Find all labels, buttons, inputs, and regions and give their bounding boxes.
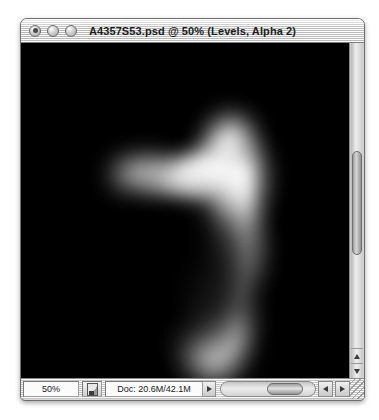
document-info-value: Doc: 20.6M/42.1M: [117, 384, 191, 394]
artwork-arm: [147, 156, 230, 196]
status-bar: 50% Doc: 20.6M/42.1M: [21, 378, 364, 399]
artwork-body-lower: [187, 257, 255, 358]
artwork-hook-top: [198, 111, 258, 179]
window-controls: [29, 25, 77, 37]
document-info-popup-button[interactable]: [203, 381, 216, 397]
triangle-down-icon: [354, 369, 360, 374]
document-info-field[interactable]: Doc: 20.6M/42.1M: [105, 381, 203, 397]
artwork-arm-tip: [112, 157, 172, 189]
artwork-core-mid: [210, 222, 243, 304]
triangle-up-icon: [354, 354, 360, 359]
artwork-junction: [191, 153, 239, 201]
triangle-right-icon: [207, 386, 212, 392]
horizontal-scrollbar-thumb[interactable]: [267, 383, 303, 395]
window-title-bar[interactable]: A4357S53.psd @ 50% (Levels, Alpha 2): [21, 19, 364, 43]
minimize-button[interactable]: [47, 25, 59, 37]
artwork-concavity: [149, 199, 253, 349]
scroll-left-button[interactable]: [318, 381, 333, 397]
zoom-level-field[interactable]: 50%: [23, 381, 79, 397]
artwork-tail: [179, 316, 245, 378]
photoshop-document-window[interactable]: A4357S53.psd @ 50% (Levels, Alpha 2): [20, 18, 365, 401]
zoom-button[interactable]: [65, 25, 77, 37]
scroll-up-button[interactable]: [351, 348, 363, 363]
window-resize-grip[interactable]: [350, 379, 364, 399]
zoom-level-value: 50%: [42, 384, 60, 394]
document-proxy-button[interactable]: [82, 381, 102, 397]
scroll-right-button[interactable]: [335, 381, 350, 397]
triangle-left-icon: [323, 386, 328, 392]
artwork-body-upper: [206, 191, 260, 291]
close-button[interactable]: [29, 25, 41, 37]
image-canvas[interactable]: [21, 43, 349, 378]
artwork-core-lower: [193, 287, 235, 353]
scroll-down-button[interactable]: [351, 363, 363, 378]
window-body: [21, 43, 364, 378]
document-proxy-icon: [87, 383, 98, 396]
triangle-right-icon: [340, 386, 345, 392]
artwork-arm-inner: [171, 163, 231, 197]
artwork-core-upper: [215, 162, 249, 235]
artwork-hook-upper: [211, 144, 267, 231]
vertical-scrollbar[interactable]: [349, 43, 364, 378]
vertical-scrollbar-thumb[interactable]: [352, 151, 362, 255]
horizontal-scrollbar[interactable]: [220, 381, 316, 397]
